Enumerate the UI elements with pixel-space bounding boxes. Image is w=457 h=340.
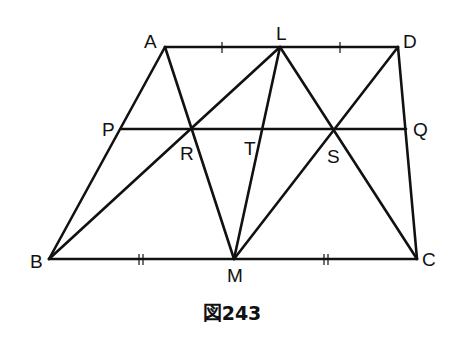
label-T: T xyxy=(244,138,256,159)
segment-DM xyxy=(234,47,398,259)
geometry-figure: A L D B M C P Q R T S 図243 xyxy=(0,0,457,340)
figure-caption: 図243 xyxy=(203,302,262,324)
segment-LC xyxy=(280,47,417,259)
label-L: L xyxy=(276,23,287,44)
label-A: A xyxy=(144,31,157,52)
label-M: M xyxy=(227,265,243,286)
label-D: D xyxy=(403,31,417,52)
label-B: B xyxy=(30,251,43,272)
label-R: R xyxy=(180,143,194,164)
segment-AM xyxy=(165,47,234,259)
label-P: P xyxy=(102,119,115,140)
label-C: C xyxy=(422,249,436,270)
segment-AB xyxy=(49,47,165,259)
segment-DC xyxy=(398,47,417,259)
label-S: S xyxy=(327,146,340,167)
label-Q: Q xyxy=(413,119,428,140)
